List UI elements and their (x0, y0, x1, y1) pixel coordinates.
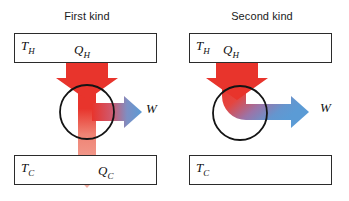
panel-second-kind: Second kind TH TC (175, 0, 349, 201)
heat-output-label-first: QC (98, 163, 113, 181)
work-label-first: W (146, 101, 157, 117)
work-label-second: W (320, 100, 331, 116)
cold-reservoir-box-first: TC (14, 155, 157, 185)
cold-reservoir-label-first: TC (21, 160, 34, 178)
cold-reservoir-label-second: TC (196, 160, 209, 178)
hot-reservoir-label-second: TH (196, 38, 210, 56)
heat-input-label-first: QH (74, 42, 90, 60)
hot-reservoir-label-first: TH (21, 38, 35, 56)
heat-input-label-second: QH (223, 42, 239, 60)
work-output-arrow (92, 96, 142, 128)
cold-reservoir-box-second: TC (189, 155, 332, 185)
thermodynamics-engine-figure: First kind (0, 0, 349, 201)
hot-reservoir-box-second: TH (189, 33, 332, 63)
panel-first-kind: First kind (0, 0, 174, 201)
